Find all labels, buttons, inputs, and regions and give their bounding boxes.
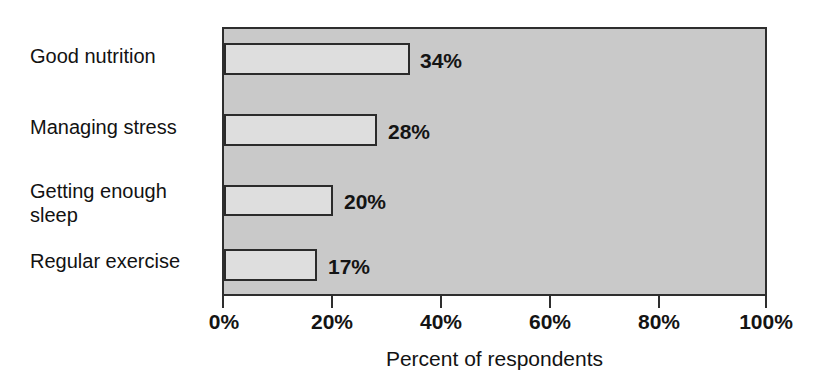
x-axis-tick-60 bbox=[549, 296, 551, 308]
horizontal-bar-chart: Good nutrition Managing stress Getting e… bbox=[0, 0, 821, 387]
x-axis-tick-label-20: 20% bbox=[311, 311, 353, 332]
plot-area: 34% 28% 20% 17% bbox=[222, 27, 767, 296]
category-label-regular-exercise: Regular exercise bbox=[0, 250, 210, 274]
x-axis-tick-label-40: 40% bbox=[420, 311, 462, 332]
bar-regular-exercise bbox=[224, 249, 317, 281]
category-label-line-1: Managing stress bbox=[30, 116, 198, 140]
x-axis-tick-100 bbox=[765, 296, 767, 308]
bar-getting-enough-sleep bbox=[224, 185, 333, 216]
category-label-good-nutrition: Good nutrition bbox=[0, 45, 210, 69]
category-label-line-2: sleep bbox=[30, 204, 198, 228]
bar-value-label-managing-stress: 28% bbox=[388, 121, 430, 142]
category-label-managing-stress: Managing stress bbox=[0, 116, 210, 140]
bar-value-label-regular-exercise: 17% bbox=[328, 256, 370, 277]
bar-managing-stress bbox=[224, 114, 377, 146]
bar-value-label-getting-enough-sleep: 20% bbox=[344, 191, 386, 212]
x-axis-tick-0 bbox=[222, 296, 224, 308]
x-axis-tick-20 bbox=[331, 296, 333, 308]
x-axis-tick-label-0: 0% bbox=[209, 311, 239, 332]
category-label-line-1: Regular exercise bbox=[30, 250, 198, 274]
x-axis-tick-80 bbox=[658, 296, 660, 308]
bar-good-nutrition bbox=[224, 43, 410, 75]
x-axis-tick-40 bbox=[440, 296, 442, 308]
category-label-getting-enough-sleep: Getting enough sleep bbox=[0, 180, 210, 227]
x-axis-tick-label-100: 100% bbox=[739, 311, 793, 332]
x-axis-tick-label-60: 60% bbox=[529, 311, 571, 332]
category-label-line-1: Getting enough bbox=[30, 180, 198, 204]
x-axis-tick-label-80: 80% bbox=[638, 311, 680, 332]
bar-value-label-good-nutrition: 34% bbox=[420, 50, 462, 71]
category-label-line-1: Good nutrition bbox=[30, 45, 198, 69]
x-axis-title: Percent of respondents bbox=[222, 348, 767, 369]
